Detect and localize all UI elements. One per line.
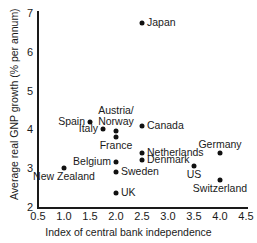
point-label: Austria/Norway bbox=[98, 105, 134, 127]
x-tick-label: 4.0 bbox=[212, 211, 227, 222]
data-point bbox=[114, 129, 119, 134]
x-axis-title: Index of central bank independence bbox=[0, 226, 257, 238]
point-label: Canada bbox=[147, 120, 184, 131]
data-point bbox=[140, 158, 145, 163]
point-label: France bbox=[100, 141, 133, 152]
point-label: Japan bbox=[147, 17, 176, 28]
x-tick-label: 4.5 bbox=[238, 211, 253, 222]
data-point bbox=[218, 150, 223, 155]
point-label: Sweden bbox=[121, 167, 159, 178]
point-label: UK bbox=[121, 188, 136, 199]
data-point bbox=[140, 123, 145, 128]
point-label: Germany bbox=[198, 139, 241, 150]
point-label: New Zealand bbox=[33, 172, 95, 183]
point-label: Italy bbox=[79, 124, 98, 135]
x-tick-label: 1.5 bbox=[82, 211, 97, 222]
x-tick-label: 3.5 bbox=[186, 211, 201, 222]
scatter-chart: 234567 0.51.01.52.02.53.03.54.04.5 Index… bbox=[0, 0, 257, 243]
x-tick-label: 3.0 bbox=[160, 211, 175, 222]
point-label: Belgium bbox=[73, 157, 111, 168]
point-label: Switzerland bbox=[193, 183, 247, 194]
point-label: Denmark bbox=[147, 155, 190, 166]
y-axis-title: Average real GNP growth (% per annum) bbox=[8, 20, 20, 200]
x-tick-label: 0.5 bbox=[30, 211, 45, 222]
x-axis-line bbox=[37, 207, 248, 209]
data-point bbox=[114, 160, 119, 165]
x-tick-label: 2.5 bbox=[134, 211, 149, 222]
x-tick-label: 2.0 bbox=[108, 211, 123, 222]
y-tick-label: 5 bbox=[27, 85, 33, 96]
data-point bbox=[140, 20, 145, 25]
y-tick-label: 7 bbox=[27, 8, 33, 19]
y-tick-label: 6 bbox=[27, 46, 33, 57]
data-point bbox=[114, 170, 119, 175]
x-tick-label: 1.0 bbox=[56, 211, 71, 222]
data-point bbox=[140, 150, 145, 155]
data-point bbox=[114, 191, 119, 196]
data-point bbox=[101, 127, 106, 132]
point-label: US bbox=[187, 170, 202, 181]
y-tick-label: 4 bbox=[27, 124, 33, 135]
